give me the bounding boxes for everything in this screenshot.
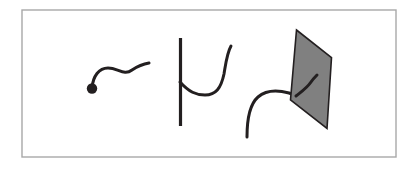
endpoint-dot [87, 83, 97, 93]
figure-svg [0, 0, 419, 172]
figure-border [22, 10, 396, 157]
figure-container [0, 0, 419, 172]
